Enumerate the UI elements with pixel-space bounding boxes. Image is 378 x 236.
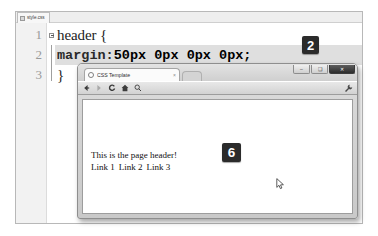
minimize-button[interactable]: – [293, 65, 310, 74]
document-icon [20, 16, 25, 21]
close-icon[interactable]: × [173, 72, 176, 78]
browser-titlebar[interactable]: CSS Template × – ❑ ✕ [78, 64, 357, 81]
fold-toggle-icon[interactable] [47, 33, 55, 38]
close-button[interactable]: ✕ [329, 65, 355, 74]
wrench-icon[interactable] [344, 79, 353, 97]
home-icon[interactable] [121, 84, 129, 92]
back-arrow-icon[interactable] [82, 84, 90, 92]
callout-badge-2: 2 [302, 36, 319, 54]
window-controls: – ❑ ✕ [293, 65, 355, 74]
globe-icon [88, 72, 94, 78]
maximize-button[interactable]: ❑ [311, 65, 328, 74]
code-text-line-3: } [57, 67, 64, 84]
page-header-text: This is the page header! [83, 150, 352, 162]
search-icon[interactable] [134, 84, 142, 92]
browser-tab-label: CSS Template [97, 72, 170, 78]
forward-arrow-icon[interactable] [95, 84, 103, 92]
line-number: 2 [16, 47, 47, 63]
code-fold-rail [51, 45, 52, 81]
page-link-3[interactable]: Link 3 [147, 162, 171, 172]
page-viewport: This is the page header! Link 1Link 2Lin… [82, 99, 353, 214]
line-number: 3 [16, 67, 47, 83]
page-links-row: Link 1Link 2Link 3 [83, 162, 352, 174]
new-tab-button[interactable] [182, 71, 202, 81]
editor-tab-strip: style.css [16, 12, 362, 23]
page-link-2[interactable]: Link 2 [119, 162, 143, 172]
browser-tab-css-template[interactable]: CSS Template × [84, 68, 180, 81]
screenshot-root: style.css 1 header { 2 [0, 0, 378, 236]
reload-icon[interactable] [108, 84, 116, 92]
code-value-margin: 50px 0px 0px 0px; [114, 48, 252, 63]
editor-tab-style-css[interactable]: style.css [17, 12, 50, 23]
page-link-1[interactable]: Link 1 [91, 162, 115, 172]
callout-badge-6: 6 [222, 143, 241, 162]
browser-toolbar [78, 81, 357, 95]
code-text-line-1: header { [57, 27, 107, 44]
address-bar[interactable] [147, 84, 339, 93]
editor-tab-label: style.css [27, 16, 45, 21]
mouse-cursor [276, 176, 285, 194]
line-number: 1 [16, 27, 47, 43]
code-property-margin: margin: [57, 48, 114, 63]
browser-window: CSS Template × – ❑ ✕ [77, 63, 358, 219]
